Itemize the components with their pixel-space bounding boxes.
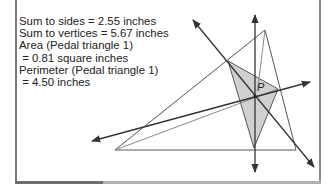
sum-to-vertices-readout: Sum to vertices = 5.67 inches [19,27,169,39]
area-value: = 0.81 square inches [19,52,169,64]
point-p[interactable] [254,95,257,98]
area-label: Area (Pedal triangle 1) [19,39,169,51]
point-p-label: P [257,81,264,93]
vertex-line [258,30,265,87]
horizontal-arrow-line[interactable] [92,82,310,141]
measurement-readouts: Sum to sides = 2.55 inches Sum to vertic… [19,15,169,88]
perimeter-label: Perimeter (Pedal triangle 1) [19,64,169,76]
sum-to-sides-readout: Sum to sides = 2.55 inches [19,15,169,27]
perimeter-value: = 4.50 inches [19,76,169,88]
